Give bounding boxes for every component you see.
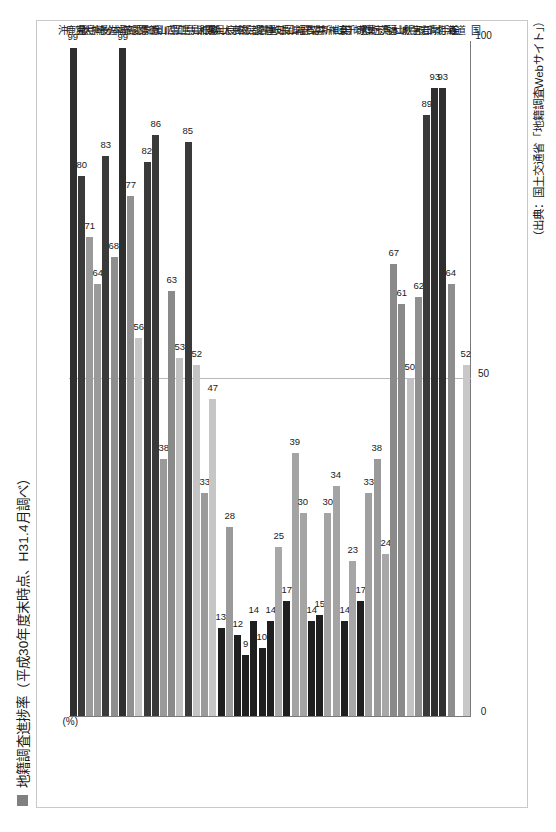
bar-row: 14愛 知 <box>266 41 274 716</box>
bar-value-label: 64 <box>446 268 457 278</box>
bar <box>333 487 340 717</box>
bar-value-label: 52 <box>461 349 472 359</box>
bar-row: 52全 国 <box>462 41 470 716</box>
bar <box>135 338 142 716</box>
bar-row: 38徳 島 <box>159 41 167 716</box>
bar-row: 33埼 玉 <box>365 41 373 716</box>
bar <box>365 493 372 716</box>
bar <box>111 257 118 716</box>
axis-area: 050100 99沖 縄80鹿児島71宮 崎64大 分83熊 本68長 崎99佐… <box>69 41 471 717</box>
bar <box>193 365 200 716</box>
bar-row: 93青 森 <box>439 41 447 716</box>
bar-row: 30富 山 <box>324 41 332 716</box>
bar <box>119 48 126 716</box>
bar <box>78 176 85 716</box>
bar <box>423 115 430 716</box>
bar <box>144 163 151 717</box>
bar <box>407 379 414 717</box>
bar-row: 28兵 庫 <box>225 41 233 716</box>
bar <box>242 655 249 716</box>
bar-row: 68長 崎 <box>110 41 118 716</box>
source-note: （出典：国土交通省「地籍調査Webサイト」） <box>530 16 546 242</box>
bar-row: 52島 根 <box>192 41 200 716</box>
bar-row: 62秋 田 <box>414 41 422 716</box>
bar-row: 14神奈川 <box>340 41 348 716</box>
bar-row: 71宮 崎 <box>85 41 93 716</box>
bar-row: 56高 知 <box>135 41 143 716</box>
bar-row: 80鹿児島 <box>77 41 85 716</box>
bar <box>431 88 438 716</box>
bar-row: 99沖 縄 <box>69 41 77 716</box>
bar <box>283 601 290 716</box>
bar-row: 39長 野 <box>291 41 299 716</box>
bar-row: 25静 岡 <box>274 41 282 716</box>
bar <box>341 622 348 717</box>
bar <box>86 237 93 716</box>
bar <box>209 399 216 716</box>
bar <box>415 298 422 717</box>
bar-row: 13奈 良 <box>217 41 225 716</box>
bar-row: 14滋 賀 <box>250 41 258 716</box>
bar-row: 64北海道 <box>447 41 455 716</box>
bar <box>127 196 134 716</box>
bar-row: 38群 馬 <box>373 41 381 716</box>
bar-row: 93岩 手 <box>431 41 439 716</box>
bar <box>448 284 455 716</box>
chart-frame: (%) 050100 99沖 縄80鹿児島71宮 崎64大 分83熊 本68長 … <box>36 20 528 808</box>
bar-row: 17岐 阜 <box>283 41 291 716</box>
bar-row: 17千 葉 <box>357 41 365 716</box>
bar <box>324 514 331 717</box>
bar <box>259 649 266 717</box>
bar-row: 82愛 媛 <box>143 41 151 716</box>
bar-row: 12大 阪 <box>233 41 241 716</box>
bar-row: 53広 島 <box>176 41 184 716</box>
bar <box>152 136 159 717</box>
bar-row: 89宮 城 <box>422 41 430 716</box>
bar-row: 24栃 木 <box>381 41 389 716</box>
bar <box>267 622 274 717</box>
chart-title-row: 地籍調査進捗率（平成30年度末時点、H31.4月調べ） <box>12 472 32 806</box>
bar-row: 63山 口 <box>168 41 176 716</box>
bar-row: 86香 川 <box>151 41 159 716</box>
bar-row: 50山 形 <box>406 41 414 716</box>
bar-row: 33鳥 取 <box>201 41 209 716</box>
bar <box>275 547 282 716</box>
chart-page: 地籍調査進捗率（平成30年度末時点、H31.4月調べ） (%) 050100 9… <box>0 0 556 832</box>
bar <box>374 460 381 717</box>
bar-row: 14福 井 <box>307 41 315 716</box>
bar <box>308 622 315 717</box>
bar-value-label: 9 <box>243 639 248 649</box>
bar <box>439 88 446 716</box>
unit-label: (%) <box>63 716 79 727</box>
bar <box>176 358 183 716</box>
bar-row: 23東 京 <box>348 41 356 716</box>
row-spacer <box>455 41 462 716</box>
bar <box>218 628 225 716</box>
bar <box>201 493 208 716</box>
bar <box>390 264 397 716</box>
tick-label: 50 <box>478 368 489 379</box>
bar-row: 15石 川 <box>316 41 324 716</box>
tick-label: 0 <box>481 706 487 717</box>
bar <box>94 284 101 716</box>
category-label: 全 国 <box>451 26 481 36</box>
bar <box>316 615 323 716</box>
bar <box>160 460 167 717</box>
bar <box>357 601 364 716</box>
bar-row: 99佐 賀 <box>118 41 126 716</box>
bar <box>185 142 192 716</box>
bar-series: 99沖 縄80鹿児島71宮 崎64大 分83熊 本68長 崎99佐 賀77福 岡… <box>69 41 470 716</box>
bar <box>382 554 389 716</box>
page-title: 地籍調査進捗率（平成30年度末時点、H31.4月調べ） <box>12 472 32 788</box>
bar-row: 61福 島 <box>398 41 406 716</box>
bar <box>292 453 299 716</box>
legend-swatch-icon <box>17 795 28 806</box>
bar <box>70 48 77 716</box>
bar <box>234 635 241 716</box>
bar <box>168 291 175 716</box>
category-axis-line <box>69 716 471 717</box>
plot-area: (%) 050100 99沖 縄80鹿児島71宮 崎64大 分83熊 本68長 … <box>55 37 493 751</box>
bar-row: 83熊 本 <box>102 41 110 716</box>
bar-row: 67茨 城 <box>390 41 398 716</box>
bar <box>463 365 470 716</box>
